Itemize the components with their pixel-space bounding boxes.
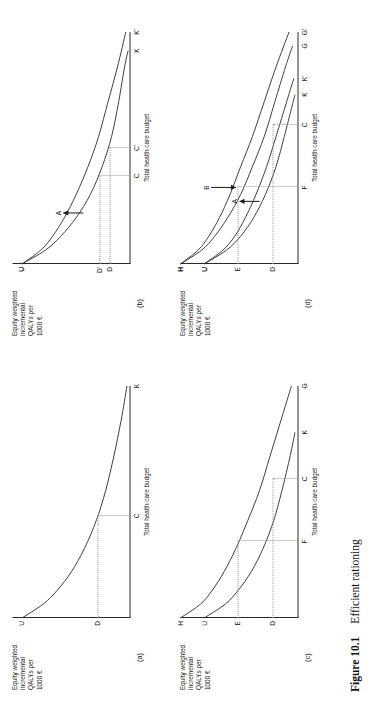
ref-line-v-C [97, 515, 130, 516]
ref-line-h-D [272, 125, 273, 264]
panel-a-plot: UKDC Total health care budget [12, 386, 130, 618]
panel-b-curves [12, 32, 130, 264]
y-label-line-3: QALYs per [194, 266, 202, 336]
panel-d: Equity weighted incremental QALYs per 10… [176, 20, 328, 338]
panel-a-tag: (a) [134, 653, 143, 662]
x-tick-G': G' [298, 29, 307, 35]
x-tick-K: K [298, 92, 307, 96]
panel-c-y-axis-label: Equity weighted incremental QALYs per 10… [178, 620, 211, 690]
panel-c-tag: (c) [302, 653, 311, 662]
y-label-line-4: 1000 € [35, 266, 43, 336]
ref-line-h-D [272, 479, 273, 618]
y-label-line-2: incremental [186, 266, 194, 336]
x-tick-F: F [298, 185, 307, 189]
x-tick-K: K [130, 384, 139, 388]
y-label-line-4: 1000 € [203, 620, 211, 690]
ref-line-v-C [99, 175, 130, 176]
panel-d-plot: HG'HGUK'UKEDFC AB Total health care budg… [180, 32, 298, 264]
y-label-line-1: Equity weighted [178, 620, 186, 690]
panel-a-y-axis-label: Equity weighted incremental QALYs per 10… [10, 620, 43, 690]
y-label-line-1: Equity weighted [10, 620, 18, 690]
curve-UK' [204, 78, 294, 264]
x-tick-K: K [130, 48, 139, 52]
panel-b-plot: UK'UKDD'CC' A Total health care budget [12, 32, 130, 264]
y-label-line-3: QALYs per [194, 620, 202, 690]
x-tick-C: C [298, 476, 307, 481]
x-tick-C: C [130, 173, 139, 178]
y-label-line-4: 1000 € [203, 266, 211, 336]
figure-page: Equity weighted incremental QALYs per 10… [0, 0, 383, 708]
annotation-label-A: A [54, 211, 61, 215]
ref-line-v-C' [109, 147, 130, 148]
curve-UK [21, 386, 126, 618]
panel-b-y-axis-label: Equity weighted incremental QALYs per 10… [10, 266, 43, 336]
y-tick-U: U [200, 264, 207, 272]
ref-line-v-F [237, 186, 298, 187]
x-tick-C: C [298, 122, 307, 127]
y-label-line-2: incremental [18, 620, 26, 690]
ref-line-h-E [237, 541, 238, 618]
x-tick-G: G [298, 43, 307, 48]
panel-c-curves [180, 386, 298, 618]
y-label-line-1: Equity weighted [178, 266, 186, 336]
x-tick-K: K [298, 430, 307, 434]
panel-d-curves [180, 32, 298, 264]
curve-HG [180, 386, 291, 618]
y-label-line-3: QALYs per [26, 266, 34, 336]
y-tick-E: E [233, 264, 240, 271]
annotation-arrow-B [211, 185, 236, 190]
curve-UK [204, 432, 295, 618]
annotation-label-B: B [202, 185, 209, 189]
panel-d-tag: (d) [302, 299, 311, 308]
ref-line-h-D' [99, 176, 100, 264]
y-label-line-2: incremental [18, 266, 26, 336]
ref-line-v-F [237, 540, 298, 541]
y-label-line-1: Equity weighted [10, 266, 18, 336]
x-tick-C': C' [130, 145, 139, 151]
y-tick-D: D [93, 618, 100, 626]
figure-panels: Equity weighted incremental QALYs per 10… [0, 0, 340, 708]
y-tick-D: D [269, 264, 276, 272]
panel-b-tag: (b) [134, 299, 143, 308]
panel-b-x-axis-label: Total health care budget [142, 32, 149, 264]
y-tick-H: H [177, 264, 184, 272]
y-tick-E: E [233, 618, 240, 625]
curve-HG [180, 46, 292, 264]
annotation-label-A: A [230, 199, 237, 203]
x-tick-G: G [298, 383, 307, 388]
y-tick-D: D [269, 618, 276, 626]
panel-b: Equity weighted incremental QALYs per 10… [8, 20, 160, 338]
y-tick-D': D' [96, 264, 103, 273]
panel-d-y-axis-label: Equity weighted incremental QALYs per 10… [178, 266, 211, 336]
x-tick-K': K' [130, 29, 139, 35]
x-tick-F: F [298, 539, 307, 543]
figure-caption: Figure 10.1Efficient rationing [348, 12, 360, 692]
panel-c: Equity weighted incremental QALYs per 10… [176, 374, 328, 692]
y-tick-H: H [177, 618, 184, 626]
annotation-arrow-A [239, 199, 259, 204]
x-tick-C: C [130, 514, 139, 519]
figure-title: Efficient rationing [348, 539, 360, 623]
x-tick-K': K' [298, 76, 307, 82]
ref-line-v-C [272, 124, 298, 125]
ref-line-h-D [109, 148, 110, 264]
y-label-line-4: 1000 € [35, 620, 43, 690]
y-tick-U: U [200, 618, 207, 626]
panel-c-x-axis-label: Total health care budget [310, 386, 317, 618]
panel-a-curves [12, 386, 130, 618]
ref-line-v-C [272, 478, 298, 479]
curve-UK [21, 51, 127, 264]
y-label-line-2: incremental [186, 620, 194, 690]
panel-d-x-axis-label: Total health care budget [310, 32, 317, 264]
y-label-line-3: QALYs per [26, 620, 34, 690]
ref-line-h-D [97, 516, 98, 618]
figure-number: Figure 10.1 [348, 637, 360, 692]
panel-a: Equity weighted incremental QALYs per 10… [8, 374, 160, 692]
panel-a-x-axis-label: Total health care budget [142, 386, 149, 618]
y-tick-D: D [105, 264, 112, 272]
y-tick-U: U [18, 618, 25, 626]
figure-page-rotated: Equity weighted incremental QALYs per 10… [0, 0, 383, 708]
y-tick-U: U [18, 264, 25, 272]
panel-c-plot: HGUKEDFC Total health care budget [180, 386, 298, 618]
